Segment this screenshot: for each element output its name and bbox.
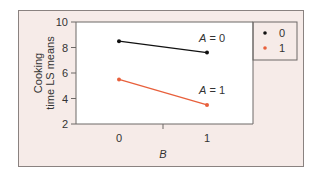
legend-label: 1 bbox=[279, 42, 285, 54]
y-tick-label: 4 bbox=[62, 93, 68, 105]
legend-marker bbox=[263, 46, 267, 50]
series-annotation: A = 0 bbox=[198, 32, 225, 44]
data-point bbox=[117, 39, 121, 43]
y-tick-label: 2 bbox=[62, 118, 68, 130]
y-tick-label: 10 bbox=[56, 16, 68, 28]
y-axis-title-line: time LS means bbox=[44, 36, 56, 110]
plot-area bbox=[76, 22, 253, 124]
interaction-plot: 24681001BCookingtime LS meansA = 0A = 10… bbox=[0, 0, 318, 176]
x-tick-label: 0 bbox=[116, 132, 122, 144]
series-annotation: A = 1 bbox=[198, 84, 225, 96]
y-tick-label: 8 bbox=[62, 42, 68, 54]
data-point bbox=[205, 51, 209, 55]
legend-marker bbox=[263, 31, 267, 35]
legend-box bbox=[253, 22, 297, 60]
legend-label: 0 bbox=[279, 27, 285, 39]
data-point bbox=[205, 103, 209, 107]
y-axis-title: Cookingtime LS means bbox=[32, 36, 56, 110]
data-point bbox=[117, 77, 121, 81]
x-tick-label: 1 bbox=[204, 132, 210, 144]
y-tick-label: 6 bbox=[62, 67, 68, 79]
y-axis-title-line: Cooking bbox=[32, 53, 44, 93]
x-axis-title: B bbox=[159, 148, 166, 160]
